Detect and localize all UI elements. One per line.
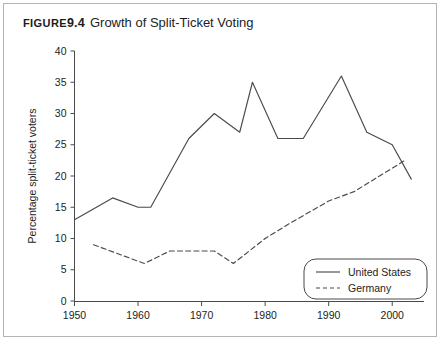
x-axis-ticks: 195019601970198019902000 xyxy=(63,301,404,321)
x-tick-label: 1960 xyxy=(126,309,150,321)
x-tick-label: 2000 xyxy=(381,309,405,321)
x-tick-label: 1980 xyxy=(253,309,277,321)
legend-label-united-states: United States xyxy=(348,266,411,278)
legend-label-germany: Germany xyxy=(348,282,392,294)
x-axis: 195019601970198019902000 xyxy=(63,301,424,321)
y-tick-label: 35 xyxy=(55,76,67,88)
figure-frame: Figure9.4Growth of Split-Ticket Voting 0… xyxy=(3,3,437,337)
data-series-group xyxy=(75,76,412,264)
chart-plot-area: 0510152025303540 Percentage split-ticket… xyxy=(4,4,441,341)
x-tick-label: 1950 xyxy=(63,309,87,321)
y-tick-label: 30 xyxy=(55,107,67,119)
x-tick-label: 1990 xyxy=(317,309,341,321)
series-line-germany xyxy=(94,160,405,263)
line-chart: 0510152025303540 Percentage split-ticket… xyxy=(4,4,441,341)
y-axis: 0510152025303540 Percentage split-ticket… xyxy=(26,45,75,307)
y-tick-label: 20 xyxy=(55,170,67,182)
y-tick-label: 10 xyxy=(55,232,67,244)
y-tick-label: 15 xyxy=(55,201,67,213)
y-axis-title: Percentage split-ticket voters xyxy=(26,109,38,244)
y-tick-label: 5 xyxy=(61,263,67,275)
y-tick-label: 0 xyxy=(61,295,67,307)
y-tick-label: 40 xyxy=(55,45,67,57)
x-tick-label: 1970 xyxy=(190,309,214,321)
y-tick-label: 25 xyxy=(55,138,67,150)
chart-legend: United StatesGermany xyxy=(304,259,427,299)
series-line-united-states xyxy=(75,76,412,220)
y-axis-ticks: 0510152025303540 xyxy=(55,45,75,307)
